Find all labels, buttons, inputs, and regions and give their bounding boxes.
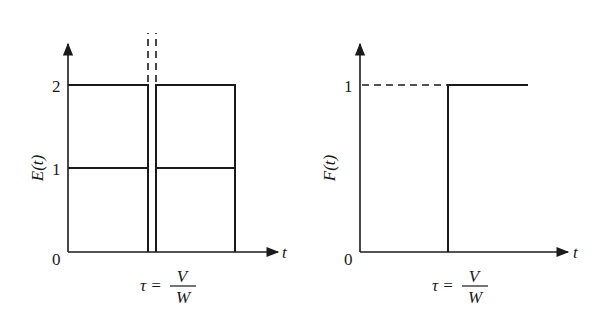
tau-denominator: W (468, 288, 484, 307)
tau-annotation: τ = V W (432, 267, 488, 307)
f-t-chart: 1 0 F(t) t τ = V W (320, 44, 579, 307)
tau-numerator: V (177, 267, 190, 286)
y-axis-label: F(t) (320, 154, 339, 182)
tau-lhs: τ = (140, 276, 162, 295)
x-axis-label: t (573, 243, 579, 262)
tick-1: 1 (344, 77, 353, 96)
step-function (448, 85, 528, 252)
tau-numerator: V (469, 267, 482, 286)
tau-lhs: τ = (432, 276, 454, 295)
y-axis-label: E(t) (28, 154, 47, 182)
tau-denominator: W (176, 288, 192, 307)
tick-0: 0 (52, 250, 61, 269)
tick-2: 2 (52, 77, 61, 96)
tau-annotation: τ = V W (140, 267, 196, 307)
tick-1: 1 (52, 160, 61, 179)
x-axis-label: t (282, 243, 288, 262)
e-t-chart: 2 1 0 E(t) t τ = V W (28, 33, 288, 307)
figure: 2 1 0 E(t) t τ = V W 1 0 F(t) t τ = V W (0, 0, 603, 325)
tick-0: 0 (344, 250, 353, 269)
